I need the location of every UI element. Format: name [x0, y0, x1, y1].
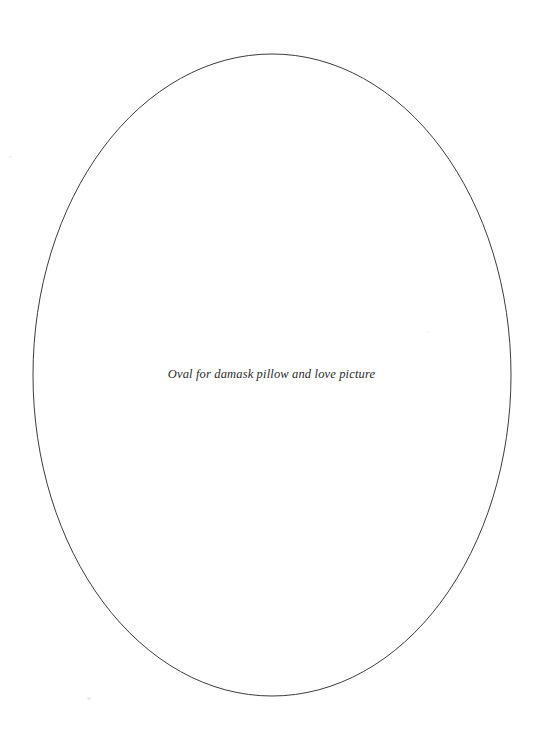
scan-speck-upper-left [9, 156, 12, 158]
scan-speck-lower-left [87, 697, 91, 700]
template-page: Oval for damask pillow and love picture [0, 0, 543, 733]
scan-speck-mid-right [426, 331, 429, 333]
oval-caption-text: Oval for damask pillow and love picture [0, 366, 543, 382]
